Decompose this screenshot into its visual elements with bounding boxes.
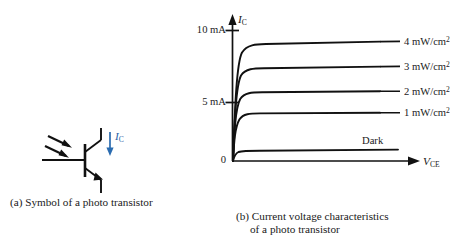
curve-label-2mw: 2 mW/cm2 bbox=[404, 85, 450, 97]
collector-current-label: IC bbox=[115, 130, 124, 144]
x-axis-arrowhead bbox=[408, 157, 420, 166]
emitter-arrowhead bbox=[94, 173, 104, 181]
origin-label: 0 bbox=[180, 154, 226, 165]
collector-current-arrow bbox=[106, 132, 113, 156]
iv-characteristics-plot bbox=[222, 0, 444, 196]
caption-panel-a: (a) Symbol of a photo transistor bbox=[10, 196, 222, 210]
curve-label-dark: Dark bbox=[362, 135, 383, 146]
y-axis-label: IC bbox=[238, 13, 247, 27]
collector-diagonal bbox=[85, 140, 101, 152]
light-ray-2-arrowhead bbox=[59, 150, 70, 158]
caption-panel-b-line1: (b) Current voltage characteristics bbox=[236, 210, 389, 222]
curve-label-4mw: 4 mW/cm2 bbox=[404, 35, 450, 47]
caption-panel-b-line2: of a photo transistor bbox=[236, 223, 446, 237]
panel-characteristics: IC VCE 10 mA 5 mA 0 4 mW/cm2 3 mW/cm2 2 … bbox=[222, 0, 444, 238]
curve-dark bbox=[233, 150, 398, 161]
caption-panel-b: (b) Current voltage characteristics of a… bbox=[236, 196, 446, 240]
y-axis-arrowhead bbox=[228, 14, 236, 25]
curve-4mw bbox=[233, 42, 380, 161]
light-ray-1-arrowhead bbox=[62, 140, 73, 148]
x-axis-label: VCE bbox=[423, 155, 440, 169]
y-tick-label-5ma: 5 mA bbox=[180, 96, 226, 107]
panel-symbol: IC (a) Symbol of a photo transistor bbox=[0, 0, 222, 238]
curve-1mw bbox=[233, 113, 380, 161]
curve-leader-lines bbox=[380, 41, 400, 112]
curve-label-3mw: 3 mW/cm2 bbox=[404, 60, 450, 72]
y-tick-label-10ma: 10 mA bbox=[180, 24, 226, 35]
curve-label-1mw: 1 mW/cm2 bbox=[404, 106, 450, 118]
